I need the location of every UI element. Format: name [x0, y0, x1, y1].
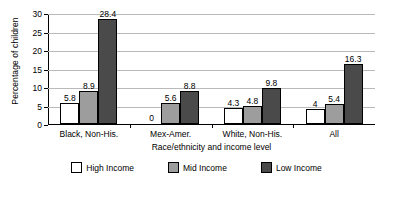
y-axis-title: Percentage of children: [10, 0, 20, 123]
y-tick-label: 30: [33, 9, 42, 19]
plot-inner: 0510152025305.88.928.405.68.84.34.89.845…: [48, 14, 375, 125]
bar-value-label: 4: [313, 99, 318, 109]
plot-area: 0510152025305.88.928.405.68.84.34.89.845…: [48, 14, 375, 125]
bar-value-label: 9.8: [265, 78, 277, 88]
y-tick-label: 0: [37, 120, 42, 130]
bar-value-label: 5.6: [165, 93, 177, 103]
x-tick-mark: [293, 124, 294, 128]
legend-label: High Income: [86, 163, 134, 173]
bar-group: 5.88.928.4: [60, 13, 117, 124]
bar-value-label: 16.3: [345, 54, 362, 64]
bar: 8.9: [79, 91, 98, 124]
bar: 8.8: [180, 91, 199, 124]
x-axis-title: Race/ethnicity and income level: [48, 142, 375, 152]
legend-label: Low Income: [276, 163, 322, 173]
bar-value-label: 8.9: [83, 81, 95, 91]
bar: 5.6: [161, 103, 180, 124]
bar-group: 45.416.3: [306, 13, 363, 124]
bar-group: 05.68.8: [142, 13, 199, 124]
legend-item[interactable]: High Income: [71, 162, 134, 173]
bar-value-label: 8.8: [184, 81, 196, 91]
y-tick-label: 10: [33, 83, 42, 93]
y-tick-mark: [44, 88, 48, 89]
bar: 5.4: [325, 104, 344, 124]
y-tick-mark: [44, 107, 48, 108]
x-tick-label: All: [329, 129, 338, 139]
x-tick-mark: [212, 124, 213, 128]
legend-item[interactable]: Mid Income: [168, 162, 227, 173]
y-tick-mark: [44, 14, 48, 15]
bar: 5.8: [60, 103, 79, 124]
legend-swatch-icon: [168, 162, 179, 173]
y-tick-label: 20: [33, 46, 42, 56]
bar-chart: Percentage of children 0510152025305.88.…: [0, 0, 393, 199]
y-tick-label: 15: [33, 65, 42, 75]
bar-value-label: 5.4: [328, 94, 340, 104]
bar: 9.8: [262, 88, 281, 124]
bar: 16.3: [344, 64, 363, 124]
y-tick-mark: [44, 70, 48, 71]
x-tick-label: Mex-Amer.: [150, 129, 191, 139]
legend-label: Mid Income: [183, 163, 227, 173]
bar-value-label: 4.3: [227, 98, 239, 108]
x-tick-label: White, Non-His.: [223, 129, 283, 139]
bar-group: 4.34.89.8: [224, 13, 281, 124]
bar-value-label: 0: [149, 113, 154, 123]
legend-swatch-icon: [261, 162, 272, 173]
y-tick-mark: [44, 51, 48, 52]
y-tick-mark: [44, 125, 48, 126]
y-tick-mark: [44, 33, 48, 34]
x-tick-label: Black, Non-His.: [60, 129, 119, 139]
bar-value-label: 28.4: [100, 9, 117, 19]
legend-swatch-icon: [71, 162, 82, 173]
bar-value-label: 5.8: [64, 93, 76, 103]
bar: 4.3: [224, 108, 243, 124]
y-tick-label: 5: [37, 102, 42, 112]
bar-value-label: 4.8: [246, 96, 258, 106]
chart-legend: High IncomeMid IncomeLow Income: [0, 162, 393, 173]
legend-item[interactable]: Low Income: [261, 162, 322, 173]
bar: 4.8: [243, 106, 262, 124]
bar: 4: [306, 109, 325, 124]
y-tick-label: 25: [33, 28, 42, 38]
bar: 28.4: [98, 19, 117, 124]
x-tick-mark: [130, 124, 131, 128]
